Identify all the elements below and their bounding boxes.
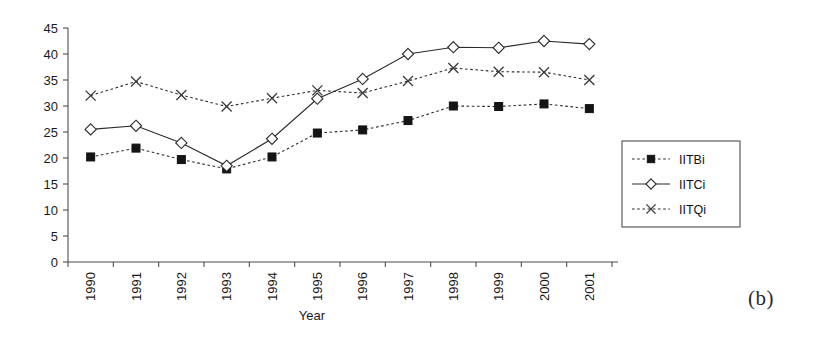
y-tick-label: 25 [44,125,58,140]
data-point-marker [495,103,503,111]
data-point-marker [647,155,654,162]
data-point-marker [540,100,548,108]
data-point-marker [268,153,276,161]
data-point-marker [176,137,187,148]
x-tick-label: 1996 [355,272,370,301]
series-line [91,41,590,166]
data-point-marker [448,42,459,53]
chart-figure: 0510152025303540451990199119921993199419… [0,0,816,341]
data-point-marker [359,126,367,134]
legend-label: IITQi [679,203,706,217]
x-tick-label: 1992 [174,272,189,301]
data-point-marker [584,39,595,50]
legend-label: IITCi [679,178,705,192]
y-tick-label: 40 [44,47,58,62]
x-tick-label: 1991 [129,272,144,301]
x-tick-label: 2000 [537,272,552,301]
legend: IITBiIITCiIITQi [622,141,740,227]
x-tick-label: 1999 [491,272,506,301]
x-tick-label: 1993 [219,272,234,301]
data-point-marker [493,42,504,53]
series-IITQi [86,63,595,111]
series-IITCi [85,35,595,171]
y-tick-label: 30 [44,99,58,114]
y-tick-label: 10 [44,203,58,218]
y-tick-label: 0 [51,255,58,270]
data-point-marker [449,102,457,110]
x-tick-label: 1997 [401,272,416,301]
y-tick-label: 45 [44,21,58,36]
data-point-marker [132,144,140,152]
y-tick-label: 5 [51,229,58,244]
data-point-marker [404,117,412,125]
y-tick-label: 20 [44,151,58,166]
data-point-marker [130,120,141,131]
line-chart: 0510152025303540451990199119921993199419… [0,0,816,341]
panel-label: (b) [748,286,774,311]
data-point-marker [357,73,368,84]
legend-label: IITBi [679,153,705,167]
data-point-marker [85,124,96,135]
data-point-marker [538,35,549,46]
x-tick-label: 1995 [310,272,325,301]
data-point-marker [87,153,95,161]
x-axis-title: Year [299,308,326,323]
y-tick-label: 35 [44,73,58,88]
data-point-marker [402,48,413,59]
x-tick-label: 1990 [83,272,98,301]
data-point-marker [585,105,593,113]
x-tick-label: 2001 [582,272,597,301]
series-line [91,68,590,106]
y-tick-label: 15 [44,177,58,192]
data-point-marker [177,156,185,164]
x-tick-label: 1998 [446,272,461,301]
data-point-marker [313,129,321,137]
x-tick-label: 1994 [265,272,280,301]
